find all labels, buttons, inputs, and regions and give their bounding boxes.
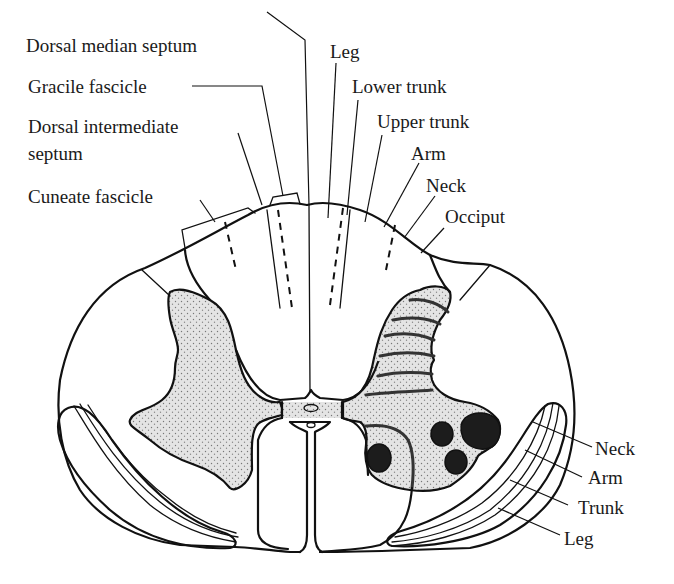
label-neck: Neck — [426, 175, 467, 196]
label-cuneate-fascicle: Cuneate fascicle — [28, 186, 153, 207]
spinal-cord-diagram: Dorsal median septum Gracile fascicle Do… — [0, 0, 674, 584]
label-lateral-arm: Arm — [588, 467, 623, 488]
labels-left: Dorsal median septum Gracile fascicle Do… — [26, 35, 197, 207]
label-occiput: Occiput — [445, 206, 506, 227]
label-dorsal-intermediate-septum-2: septum — [28, 143, 83, 164]
label-dorsal-median-septum: Dorsal median septum — [26, 35, 197, 56]
label-leg: Leg — [330, 41, 360, 62]
label-upper-trunk: Upper trunk — [377, 111, 470, 132]
label-arm: Arm — [411, 143, 446, 164]
label-lower-trunk: Lower trunk — [352, 76, 447, 97]
label-lateral-neck: Neck — [595, 438, 636, 459]
label-gracile-fascicle: Gracile fascicle — [28, 76, 147, 97]
label-dorsal-intermediate-septum-1: Dorsal intermediate — [28, 116, 178, 137]
labels-dorsal-somatotopy: Leg Lower trunk Upper trunk Arm Neck Occ… — [330, 41, 506, 227]
cord-outline — [58, 203, 574, 552]
label-lateral-trunk: Trunk — [578, 497, 624, 518]
commissure — [282, 402, 343, 418]
labels-lateral-somatotopy: Neck Arm Trunk Leg — [564, 438, 636, 549]
label-lateral-leg: Leg — [564, 528, 594, 549]
